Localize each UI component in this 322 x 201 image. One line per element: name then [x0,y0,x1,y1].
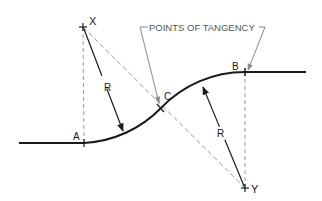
dashed-line-x-y [83,27,245,188]
reverse-curve-diagram: X Y A B C R R POINTS OF TANGENCY [0,0,322,201]
label-y: Y [251,183,259,195]
leader-line-b [248,27,265,70]
radius-arrow-x [84,29,123,131]
label-c: C [164,91,171,102]
label-a: A [73,131,80,142]
label-x: X [89,15,97,27]
points-of-tangency-label: POINTS OF TANGENCY [149,22,255,33]
leader-line-c [140,27,159,103]
dashed-line-x-a [83,27,84,143]
label-radius-y: R [217,128,224,139]
alignment-curve [19,72,306,143]
label-b: B [232,61,239,72]
label-radius-x: R [104,82,111,93]
